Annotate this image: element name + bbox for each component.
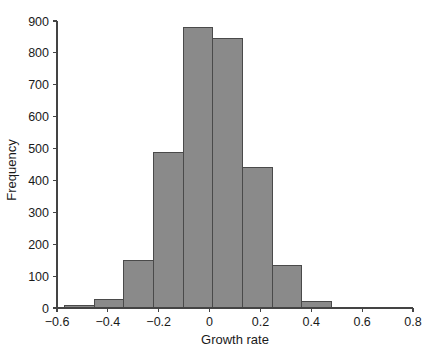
x-tick-label: −0.6	[45, 315, 70, 329]
histogram-bar	[124, 260, 154, 308]
x-tick-label: 0.6	[353, 315, 370, 329]
histogram-bar	[272, 266, 302, 308]
x-tick-label: 0.2	[252, 315, 269, 329]
y-tick-label: 0	[42, 302, 49, 316]
y-tick-label: 300	[28, 206, 49, 220]
y-axis-title: Frequency	[4, 139, 19, 201]
histogram-figure: 0100200300400500600700800900 −0.6−0.4−0.…	[0, 0, 426, 353]
x-tick-label: −0.2	[146, 315, 171, 329]
x-tick-label: 0.4	[303, 315, 320, 329]
growth-rate-histogram: 0100200300400500600700800900 −0.6−0.4−0.…	[0, 0, 426, 353]
y-tick-label: 100	[28, 270, 49, 284]
y-tick-label: 500	[28, 142, 49, 156]
histogram-bar	[154, 153, 184, 308]
y-tick-label: 900	[28, 15, 49, 29]
y-tick-label: 600	[28, 110, 49, 124]
x-tick-label: 0	[206, 315, 213, 329]
histogram-bar	[213, 39, 243, 308]
x-tick-label: 0.8	[404, 315, 421, 329]
y-tick-label: 400	[28, 174, 49, 188]
x-tick-label: −0.4	[96, 315, 121, 329]
histogram-bar	[243, 168, 273, 308]
y-tick-label: 200	[28, 238, 49, 252]
histogram-bar	[94, 299, 124, 308]
y-tick-label: 800	[28, 46, 49, 60]
x-axis-title: Growth rate	[201, 332, 269, 347]
y-tick-label: 700	[28, 78, 49, 92]
histogram-bar	[183, 27, 213, 308]
histogram-bar	[302, 302, 332, 308]
